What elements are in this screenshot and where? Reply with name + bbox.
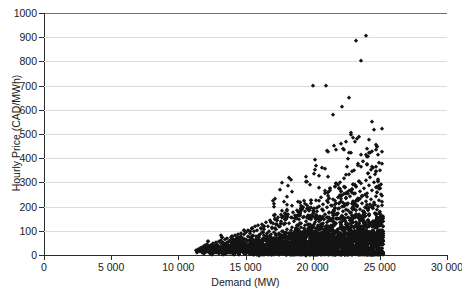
x-axis-tick-label: 25 000 <box>364 262 396 273</box>
y-axis-tick <box>39 110 44 111</box>
gridline <box>44 61 447 62</box>
gridline <box>44 37 447 38</box>
data-point <box>289 204 294 209</box>
y-axis-tick <box>39 134 44 135</box>
gridline <box>44 86 447 87</box>
x-axis-title: Demand (MW) <box>44 276 447 288</box>
x-axis-tick-label: 15 000 <box>229 262 261 273</box>
y-axis-tick-label: 600 <box>19 105 37 116</box>
y-axis-tick-label: 300 <box>19 177 37 188</box>
data-point <box>280 181 285 186</box>
y-axis-tick-label: 800 <box>19 56 37 67</box>
y-axis-tick-label: 500 <box>19 129 37 140</box>
data-point <box>319 222 323 226</box>
data-point <box>360 201 364 205</box>
data-point <box>317 186 322 191</box>
data-point <box>359 165 364 170</box>
gridline <box>44 207 447 208</box>
y-axis-tick-label: 100 <box>19 226 37 237</box>
data-point <box>332 185 337 190</box>
data-point <box>361 159 365 163</box>
data-point <box>349 150 354 155</box>
data-point <box>367 138 372 143</box>
x-axis-tick <box>44 255 45 260</box>
data-point <box>317 174 322 179</box>
data-point <box>278 248 282 252</box>
data-point <box>370 120 375 125</box>
data-point <box>364 178 368 182</box>
x-axis-tick-label: 30 000 <box>431 262 462 273</box>
y-axis-tick-label: 400 <box>19 153 37 164</box>
data-point <box>353 38 358 43</box>
data-point <box>345 164 350 169</box>
data-point <box>241 243 245 247</box>
data-point <box>374 195 378 199</box>
data-point <box>377 239 381 243</box>
y-axis-tick-label: 900 <box>19 32 37 43</box>
y-axis-tick-label: 200 <box>19 202 37 213</box>
data-point <box>238 239 242 243</box>
data-point <box>346 156 351 161</box>
y-axis-tick <box>39 61 44 62</box>
data-point <box>298 210 303 215</box>
data-point <box>367 183 371 187</box>
x-axis-tick-label: 0 <box>41 262 47 273</box>
y-axis-tick-label: 1000 <box>14 8 37 19</box>
data-point <box>330 112 335 117</box>
data-point <box>342 184 347 189</box>
gridline <box>44 182 447 183</box>
data-point <box>359 59 364 64</box>
data-point <box>256 249 260 253</box>
data-point <box>350 169 354 173</box>
data-point <box>333 147 338 152</box>
data-point <box>371 128 376 133</box>
data-point <box>365 162 369 166</box>
y-axis-title: Hourly Price (CAD/MWh) <box>10 53 22 213</box>
x-axis-tick <box>246 255 247 260</box>
data-point <box>343 140 348 145</box>
x-axis-tick <box>447 255 448 260</box>
data-point <box>380 193 385 198</box>
data-point <box>380 127 385 132</box>
data-point <box>358 152 363 157</box>
y-axis-tick <box>39 182 44 183</box>
data-point <box>324 83 329 88</box>
data-point <box>265 236 269 240</box>
data-point <box>325 205 329 209</box>
data-point <box>285 243 289 247</box>
y-axis-tick <box>39 231 44 232</box>
data-point <box>358 189 362 193</box>
data-point <box>307 183 312 188</box>
plot-area: 01002003004005006007008009001000 05 0001… <box>44 13 447 255</box>
y-axis-tick <box>39 207 44 208</box>
data-point <box>310 83 315 88</box>
gridline <box>44 134 447 135</box>
data-point <box>287 221 291 225</box>
gridline <box>44 158 447 159</box>
data-point <box>366 218 370 222</box>
data-point <box>286 183 291 188</box>
y-axis-tick <box>39 37 44 38</box>
y-axis-tick-label: 0 <box>31 250 37 261</box>
y-axis-tick <box>39 158 44 159</box>
x-axis-tick-label: 5 000 <box>98 262 124 273</box>
x-axis-tick-label: 20 000 <box>297 262 329 273</box>
data-point <box>347 95 352 100</box>
data-point <box>264 220 268 224</box>
y-axis-tick-label: 700 <box>19 81 37 92</box>
y-axis-tick <box>39 86 44 87</box>
data-point <box>326 175 331 180</box>
data-point <box>285 194 290 199</box>
data-point <box>363 186 367 190</box>
data-point <box>289 190 294 195</box>
data-point <box>370 188 374 192</box>
data-point <box>277 187 282 192</box>
x-axis-tick <box>111 255 112 260</box>
scatter-chart-figure: 01002003004005006007008009001000 05 0001… <box>0 0 462 294</box>
data-point <box>378 168 382 172</box>
data-point <box>379 162 384 167</box>
gridline <box>44 110 447 111</box>
data-point <box>322 202 326 206</box>
data-point <box>326 149 331 154</box>
x-axis-tick-label: 10 000 <box>162 262 194 273</box>
